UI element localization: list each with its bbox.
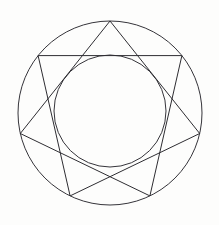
inner-circle [54,55,166,167]
geometric-figure-canvas [0,0,219,225]
outer-circle [18,21,202,205]
heptagram-star-polygon [20,21,199,196]
heptagram-drawing [0,0,219,225]
